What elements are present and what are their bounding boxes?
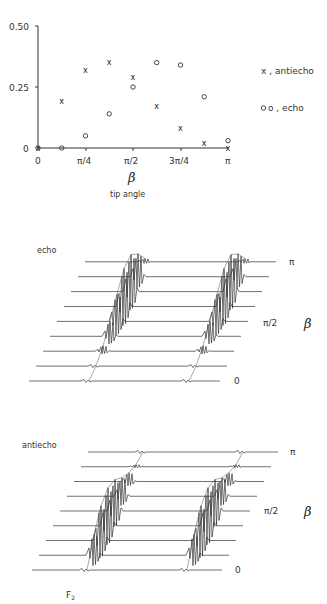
echo-point	[83, 134, 87, 138]
antiecho-point: x	[59, 97, 64, 106]
x-tick-label: π	[225, 156, 231, 166]
scatter-points: xxxxxxxxx	[36, 58, 231, 152]
legend-antiecho: x , antiecho	[261, 66, 314, 76]
echo-point	[202, 95, 206, 99]
beta-tick-pi-half: π/2	[263, 318, 277, 328]
beta-tick-pi-half: π/2	[264, 506, 278, 516]
antiecho-point: x	[202, 139, 207, 148]
beta-tick-zero: 0	[234, 376, 240, 386]
spectrum-trace	[36, 365, 227, 368]
antiecho-point: x	[83, 66, 88, 75]
antiecho-stack-plot: antiecho π π/2 β 0 F2	[22, 441, 312, 601]
spectrum-trace	[78, 254, 269, 288]
x-axis-symbol: β	[127, 170, 136, 185]
x-tick-label: π/4	[77, 156, 91, 166]
spectrum-trace	[74, 473, 264, 486]
spectrum-trace	[71, 255, 262, 310]
spectrum-trace	[29, 380, 220, 383]
y-tick-label: 0	[23, 144, 29, 154]
echo-traces	[29, 254, 276, 383]
x-tick-label: 3π/4	[169, 156, 189, 166]
antiecho-point: x	[178, 124, 183, 133]
echo-stack-plot: echo π π/2 β 0	[29, 246, 312, 386]
scatter-plot: 0.50 0.25 0 0 π/4 π/2 3π/4 π β tip angle…	[9, 22, 314, 199]
antiecho-point: x	[107, 58, 112, 67]
spectrum-trace	[81, 465, 271, 468]
beta-tick-pi: π	[289, 257, 295, 267]
spectrum-trace	[50, 321, 241, 344]
beta-axis-symbol: β	[303, 316, 312, 331]
figure: 0.50 0.25 0 0 π/4 π/2 3π/4 π β tip angle…	[0, 0, 327, 604]
spectrum-trace	[85, 259, 276, 264]
legend-echo-marker	[261, 106, 265, 110]
antiecho-traces	[32, 451, 278, 572]
antiecho-title: antiecho	[22, 441, 57, 450]
spectrum-trace	[32, 569, 222, 572]
echo-point	[226, 138, 230, 142]
antiecho-point: x	[131, 73, 136, 82]
spectrum-trace	[43, 346, 234, 354]
echo-point	[178, 63, 182, 67]
y-tick-label: 0.50	[9, 22, 29, 32]
legend-echo: o , echo	[268, 103, 304, 113]
x-tick-label: 0	[35, 156, 41, 166]
spectrum-trace	[88, 451, 278, 454]
beta-tick-zero: 0	[235, 565, 241, 575]
echo-point	[131, 85, 135, 89]
f2-axis-label: F2	[66, 590, 75, 601]
x-tick-label: π/2	[124, 156, 138, 166]
beta-axis-symbol: β	[303, 504, 312, 519]
echo-title: echo	[37, 246, 56, 255]
echo-point	[107, 112, 111, 116]
antiecho-point: x	[226, 144, 231, 153]
x-axis-label: tip angle	[110, 190, 145, 199]
antiecho-point: x	[154, 102, 159, 111]
beta-tick-pi: π	[290, 447, 296, 457]
y-tick-label: 0.25	[9, 83, 29, 93]
echo-point	[155, 60, 159, 64]
